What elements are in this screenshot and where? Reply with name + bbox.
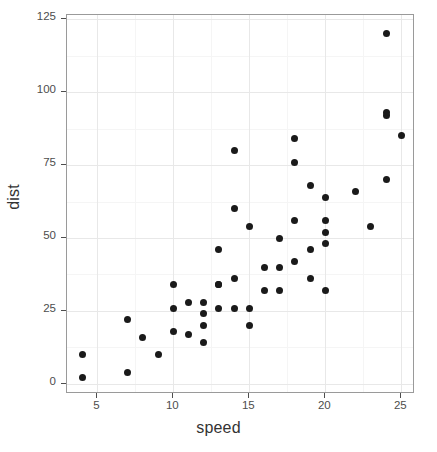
x-axis-tick-mark [248, 393, 249, 398]
data-point [246, 322, 253, 329]
data-point [291, 135, 298, 142]
data-point [276, 235, 283, 242]
x-axis-tick-label: 25 [394, 399, 407, 411]
gridline-major-vertical [325, 15, 326, 392]
data-point [155, 351, 162, 358]
data-point [215, 305, 222, 312]
data-point [307, 182, 314, 189]
gridline-minor-vertical [135, 15, 136, 392]
gridline-minor-horizontal [67, 202, 413, 203]
gridline-minor-horizontal [67, 274, 413, 275]
data-point [170, 328, 177, 335]
data-point [139, 334, 146, 341]
data-point [170, 281, 177, 288]
x-axis-tick-mark [96, 393, 97, 398]
data-point [398, 132, 405, 139]
data-point [231, 275, 238, 282]
y-axis-tick-label-text: 75 [43, 156, 56, 168]
gridline-major-vertical [173, 15, 174, 392]
gridline-major-horizontal [67, 165, 413, 166]
y-axis-tick-label-text: 0 [50, 375, 56, 387]
data-point [124, 316, 131, 323]
data-point [322, 240, 329, 247]
x-axis-tick-label: 10 [166, 399, 179, 411]
data-point [215, 246, 222, 253]
data-point [185, 299, 192, 306]
y-axis-title-text: dist [5, 184, 23, 210]
x-axis-title: speed [0, 419, 437, 437]
gridline-major-horizontal [67, 19, 413, 20]
gridline-major-horizontal [67, 238, 413, 239]
data-point [200, 310, 207, 317]
data-point [291, 217, 298, 224]
data-point [383, 176, 390, 183]
gridline-minor-vertical [363, 15, 364, 392]
data-point [246, 305, 253, 312]
y-axis-title: dist [2, 0, 26, 393]
y-axis-tick-label-text: 25 [43, 302, 56, 314]
y-axis-tick-label-text: 100 [37, 83, 56, 95]
data-point [261, 264, 268, 271]
gridline-major-vertical [401, 15, 402, 392]
data-point [200, 299, 207, 306]
data-point [231, 305, 238, 312]
data-point [185, 331, 192, 338]
gridline-major-vertical [249, 15, 250, 392]
gridline-minor-horizontal [67, 56, 413, 57]
x-axis-tick-mark [324, 393, 325, 398]
gridline-major-horizontal [67, 311, 413, 312]
x-axis-tick-label: 20 [318, 399, 331, 411]
gridline-major-horizontal [67, 384, 413, 385]
data-point [79, 351, 86, 358]
x-axis-tick-mark [400, 393, 401, 398]
data-point [200, 339, 207, 346]
data-point [276, 264, 283, 271]
x-axis-tick-mark [172, 393, 173, 398]
data-point [261, 287, 268, 294]
gridline-major-vertical [97, 15, 98, 392]
gridline-minor-horizontal [67, 347, 413, 348]
gridline-minor-vertical [211, 15, 212, 392]
gridline-major-horizontal [67, 92, 413, 93]
y-axis-tick-label-text: 50 [43, 229, 56, 241]
data-point [291, 258, 298, 265]
data-point [231, 147, 238, 154]
data-point [322, 287, 329, 294]
data-point [307, 246, 314, 253]
data-point [352, 188, 359, 195]
gridline-minor-vertical [287, 15, 288, 392]
y-axis-tick-label-text: 125 [37, 10, 56, 22]
data-point [307, 275, 314, 282]
data-point [79, 374, 86, 381]
data-point [231, 205, 238, 212]
data-point [383, 109, 390, 116]
scatter-plot-figure: dist 0255075100125 510152025 speed [0, 0, 437, 452]
data-point [322, 229, 329, 236]
data-point [276, 287, 283, 294]
data-point [322, 217, 329, 224]
data-point [322, 194, 329, 201]
data-point [124, 369, 131, 376]
data-point [246, 223, 253, 230]
data-point [215, 281, 222, 288]
data-point [200, 322, 207, 329]
gridline-minor-horizontal [67, 129, 413, 130]
data-point [367, 223, 374, 230]
data-point [170, 305, 177, 312]
plot-panel [66, 14, 414, 393]
data-point [383, 30, 390, 37]
x-axis-tick-label: 15 [242, 399, 255, 411]
x-axis-tick-label: 5 [93, 399, 99, 411]
